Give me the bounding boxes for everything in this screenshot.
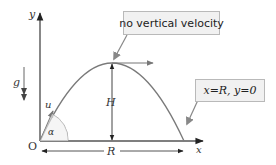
gravity-arrow-icon (21, 67, 27, 101)
landing-callout: x=R, y=0 (195, 79, 265, 102)
landing-callout-pointer (187, 100, 198, 124)
y-axis-label: y (29, 9, 35, 20)
range-label: R (107, 146, 115, 157)
apex-callout-pointer (114, 35, 127, 59)
apex-callout: no vertical velocity (123, 11, 220, 35)
angle-label: α (48, 128, 54, 137)
velocity-label: u (45, 100, 51, 110)
x-axis-label: x (196, 145, 202, 155)
height-label: H (106, 97, 116, 108)
origin-label: O (28, 141, 37, 152)
gravity-label: g (13, 77, 20, 88)
